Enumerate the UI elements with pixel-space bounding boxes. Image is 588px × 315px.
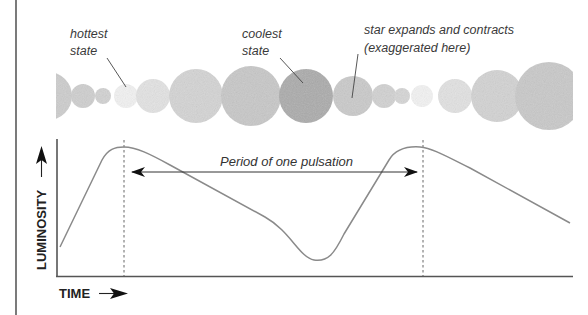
star-phase-9 [333,76,373,116]
star-phase-2 [71,84,95,108]
coolest-label-line2: state [242,44,269,58]
star-phase-5 [136,79,170,113]
x-axis-label: TIME [59,286,90,301]
hottest-leader-line [107,58,126,87]
star-phase-7 [221,66,281,126]
star-phase-1 [24,72,72,120]
hottest-label-line1: hottest [70,27,108,41]
expands-label-line2: (exaggerated here) [364,41,470,55]
period-label: Period of one pulsation [220,154,353,169]
pulsating-star-diagram: hottest state coolest state star expands… [0,0,588,315]
star-size-sequence [24,62,583,130]
star-phase-3 [95,88,111,104]
star-phase-10 [372,84,396,108]
annotation-hottest: hottest state [70,27,126,87]
star-phase-15 [515,62,583,130]
light-curve-chart: Period of one pulsation LUMINOSITY TIME [34,139,573,301]
hottest-label-line2: state [70,44,97,58]
expands-label-line1: star expands and contracts [364,23,514,37]
coolest-label-line1: coolest [242,27,282,41]
star-phase-4 [114,84,138,108]
star-phase-8 [279,69,333,123]
y-axis-label: LUMINOSITY [34,190,49,270]
star-phase-11 [394,88,410,104]
x-axis-label-group: TIME [59,286,128,301]
star-phase-12 [411,85,433,107]
star-phase-13 [438,79,472,113]
y-axis-label-group: LUMINOSITY [34,146,49,270]
star-phase-6 [169,69,223,123]
